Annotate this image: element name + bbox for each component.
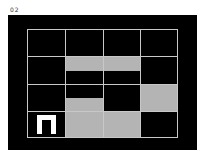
cell-r2c3-fill [103,57,140,71]
cell-r4c1 [28,112,65,137]
figure-label: 02 [10,7,20,13]
grid [27,29,178,138]
stimulus-panel [8,15,197,150]
cell-r4c2-fill [65,112,103,137]
cell-r3c2-fill [65,98,103,111]
cell-r4c3-fill [103,112,140,137]
grid-hline-1 [28,56,177,57]
pi-glyph-icon [37,115,56,134]
grid-hline-2 [28,84,177,85]
cell-r2c2-fill [65,57,103,71]
cell-r3c4-fill [140,85,177,111]
grid-hline-3 [28,111,177,112]
